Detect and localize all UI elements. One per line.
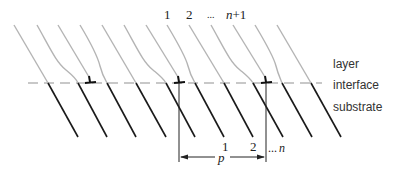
arrow-right-icon — [257, 155, 265, 160]
period-label-p: p — [217, 150, 225, 165]
arrow-left-icon — [180, 155, 188, 160]
substrate-plane — [195, 83, 224, 137]
substrate-plane — [48, 83, 78, 137]
bottom-label-n: ...n — [268, 141, 285, 155]
layer-plane — [14, 25, 48, 83]
layer-plane — [255, 25, 282, 83]
substrate-planes — [48, 83, 341, 137]
substrate-plane — [136, 83, 166, 137]
layer-plane — [80, 25, 107, 83]
substrate-label: substrate — [333, 100, 383, 114]
top-label-2: 2 — [186, 7, 193, 22]
layer-plane — [167, 25, 195, 83]
layer-planes — [14, 25, 311, 83]
substrate-plane — [282, 83, 312, 137]
top-label-n-plus-1: n+1 — [226, 7, 246, 22]
layer-plane — [211, 25, 253, 83]
top-label-ellipsis: ... — [207, 9, 215, 20]
misfit-dislocation-diagram: 1 2 ... n+1 layer interface substrate 1 … — [0, 0, 397, 172]
dislocation-icon — [174, 76, 185, 83]
dislocation-icon — [85, 76, 96, 83]
layer-plane — [189, 25, 224, 83]
layer-plane — [102, 25, 136, 83]
bottom-label-2: 2 — [250, 139, 257, 154]
layer-label: layer — [333, 57, 359, 71]
substrate-plane — [253, 83, 283, 137]
top-label-1: 1 — [164, 7, 171, 22]
substrate-plane — [166, 83, 195, 137]
substrate-plane — [78, 83, 107, 137]
substrate-plane — [224, 83, 253, 137]
layer-plane — [277, 25, 311, 83]
interface-label: interface — [333, 78, 379, 92]
substrate-plane — [107, 83, 136, 137]
layer-plane — [146, 25, 178, 77]
dislocation-icon — [261, 76, 272, 83]
